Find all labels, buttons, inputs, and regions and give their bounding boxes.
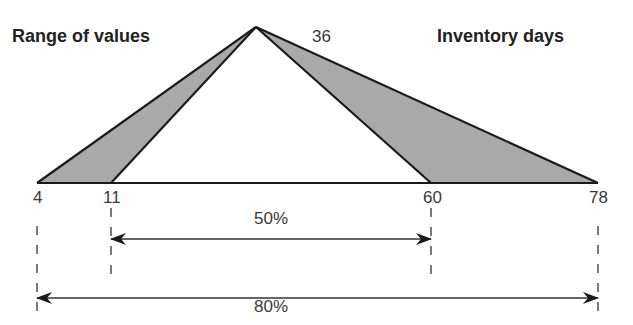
inventory-days-heading: Inventory days (437, 26, 564, 47)
axis-label-low: 11 (103, 188, 121, 208)
triangular-distribution-diagram: Range of values Inventory days 36 4 11 6… (0, 0, 633, 325)
mode-label: 36 (312, 27, 331, 47)
outer-range-percent: 80% (254, 297, 288, 317)
outer-left-edge (37, 27, 256, 183)
diagram-graphic (0, 0, 633, 325)
axis-label-min: 4 (33, 188, 42, 208)
axis-label-max: 78 (589, 188, 608, 208)
inner-range-percent: 50% (254, 209, 288, 229)
axis-label-high: 60 (423, 188, 442, 208)
range-of-values-heading: Range of values (12, 26, 150, 47)
inner-left-edge (111, 27, 256, 183)
